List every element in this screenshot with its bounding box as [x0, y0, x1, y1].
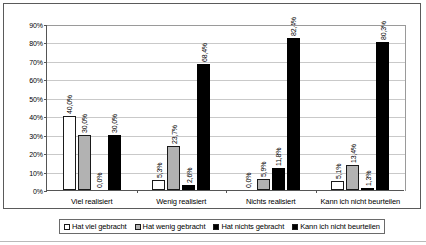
- bar-value-label: 40,0%: [66, 95, 73, 114]
- plot-inner: 40,0%30,0%0,0%30,0%Viel realisiert5,3%23…: [47, 25, 404, 190]
- plot-right-edge: [405, 25, 406, 191]
- bar-value-label: 30,0%: [111, 114, 118, 133]
- bar: [78, 135, 91, 190]
- bar: [257, 179, 270, 190]
- y-axis-tick-mark: [44, 43, 47, 44]
- bar-value-label: 30,0%: [81, 114, 88, 133]
- y-axis-tick-label: 40%: [29, 114, 43, 121]
- bottom-divider: [0, 241, 426, 242]
- y-axis-tick-mark: [44, 136, 47, 137]
- bar: [361, 188, 374, 190]
- y-axis-tick-mark: [44, 62, 47, 63]
- bar: [167, 146, 180, 190]
- bar: [108, 135, 121, 190]
- y-axis-tick-label: 90%: [29, 22, 43, 29]
- x-axis-tick-mark: [226, 190, 227, 193]
- bar-value-label: 80,3%: [380, 21, 387, 40]
- y-axis-tick-label: 50%: [29, 95, 43, 102]
- bar-group: 0,0%5,9%11,8%82,4%Nichts realisiert: [226, 24, 316, 190]
- bar-value-label: 2,6%: [186, 168, 193, 183]
- x-axis-tick-mark: [316, 190, 317, 193]
- bar: [182, 185, 195, 190]
- bar: [272, 168, 285, 190]
- bar-group: 40,0%30,0%0,0%30,0%Viel realisiert: [47, 24, 137, 190]
- legend-item: Hat wenig gebracht: [135, 223, 206, 231]
- bar-value-label: 5,9%: [260, 162, 267, 177]
- bar-value-label: 68,4%: [201, 43, 208, 62]
- plot-top-edge: [47, 25, 405, 26]
- legend-swatch: [292, 224, 298, 230]
- bar-group: 5,1%13,4%1,3%80,3%Kann ich nicht beurtei…: [316, 24, 406, 190]
- chart-screenshot: 40,0%30,0%0,0%30,0%Viel realisiert5,3%23…: [0, 0, 426, 245]
- bar-value-label: 11,8%: [275, 148, 282, 166]
- legend-label: Kann ich nicht beurteilen: [300, 223, 380, 231]
- legend-item: Hat viel gebracht: [64, 223, 127, 231]
- bar: [331, 181, 344, 190]
- legend-label: Hat viel gebracht: [72, 223, 127, 231]
- bar-value-label: 13,4%: [350, 144, 357, 163]
- x-axis-tick-mark: [137, 190, 138, 193]
- y-axis-tick-label: 60%: [29, 77, 43, 84]
- y-axis-tick-mark: [44, 173, 47, 174]
- bar-value-label: 5,3%: [156, 163, 163, 178]
- bar-value-label: 1,3%: [365, 170, 372, 185]
- legend-item: Hat nichts gebracht: [213, 223, 284, 231]
- bar: [376, 42, 389, 190]
- y-axis-tick-mark: [44, 80, 47, 81]
- y-axis-tick-label: 80%: [29, 40, 43, 47]
- y-axis-tick-mark: [44, 25, 47, 26]
- bar-value-label: 5,1%: [335, 163, 342, 178]
- legend-label: Hat wenig gebracht: [143, 223, 206, 231]
- legend-swatch: [135, 224, 141, 230]
- bar-value-label: 0,0%: [245, 173, 252, 188]
- y-axis-tick-mark: [44, 117, 47, 118]
- chart-frame: 40,0%30,0%0,0%30,0%Viel realisiert5,3%23…: [3, 3, 421, 209]
- bar-value-label: 0,0%: [96, 173, 103, 188]
- x-axis-category-label: Kann ich nicht beurteilen: [316, 197, 406, 206]
- y-axis-tick-label: 10%: [29, 169, 43, 176]
- x-axis-category-label: Viel realisiert: [47, 197, 137, 206]
- bar: [197, 64, 210, 190]
- bar: [287, 38, 300, 190]
- bar-group: 5,3%23,7%2,6%68,4%Wenig realisiert: [137, 24, 227, 190]
- plot-area: 40,0%30,0%0,0%30,0%Viel realisiert5,3%23…: [46, 25, 404, 191]
- bar: [346, 165, 359, 190]
- bar: [63, 116, 76, 190]
- chart-legend: Hat viel gebrachtHat wenig gebrachtHat n…: [59, 219, 385, 234]
- y-axis-tick-mark: [44, 154, 47, 155]
- y-axis-tick-label: 30%: [29, 132, 43, 139]
- legend-item: Kann ich nicht beurteilen: [292, 223, 380, 231]
- legend-label: Hat nichts gebracht: [221, 223, 284, 231]
- bar: [152, 180, 165, 190]
- y-axis-tick-mark: [44, 99, 47, 100]
- x-axis-category-label: Wenig realisiert: [137, 197, 227, 206]
- y-axis-tick-label: 70%: [29, 58, 43, 65]
- legend-swatch: [213, 224, 219, 230]
- y-axis-tick-mark: [44, 191, 47, 192]
- x-axis-category-label: Nichts realisiert: [226, 197, 316, 206]
- legend-swatch: [64, 224, 70, 230]
- bar-value-label: 23,7%: [171, 125, 178, 144]
- bar-value-label: 82,4%: [290, 17, 297, 36]
- y-axis-tick-label: 0%: [33, 188, 43, 195]
- y-axis-tick-label: 20%: [29, 151, 43, 158]
